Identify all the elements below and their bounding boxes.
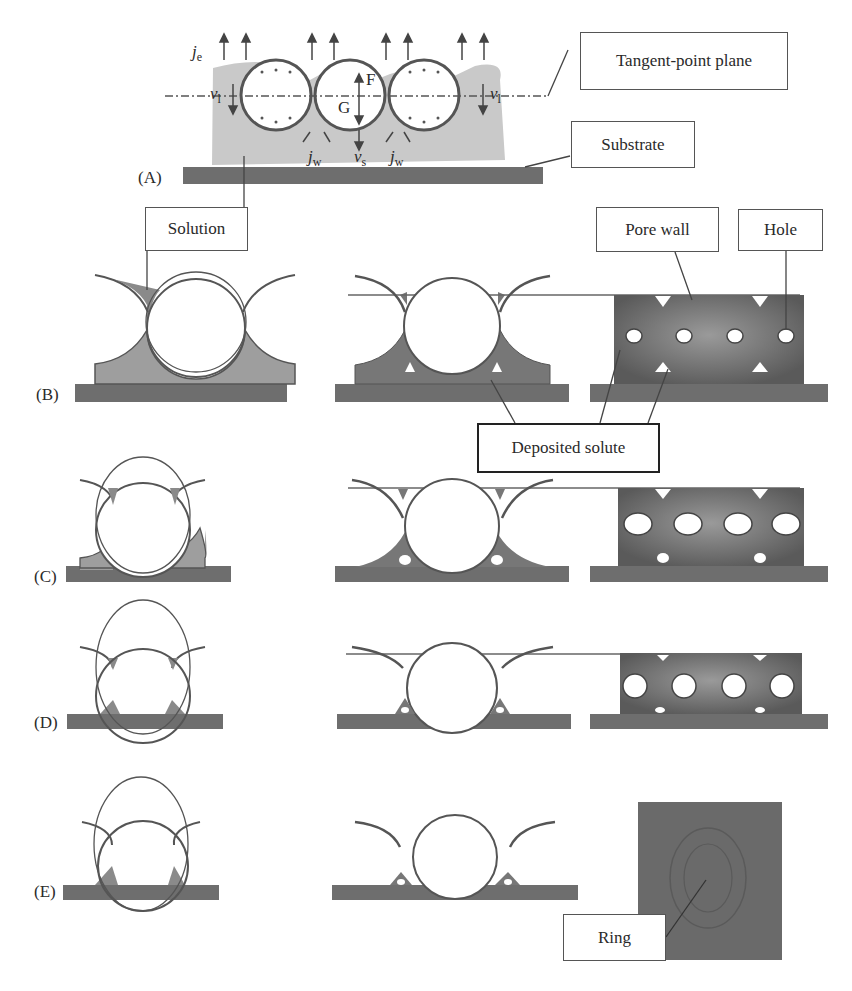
callout-tangent-point-plane: Tangent-point plane [580,32,788,90]
panel-label-b: (B) [36,385,59,405]
callout-pore-wall: Pore wall [596,207,719,252]
panel-e-diagram [63,777,782,960]
symbol-force-f: F [366,70,375,90]
panel-label-a: (A) [138,168,162,188]
panel-c-diagram [66,457,828,582]
symbol-vl-right: νl [490,84,501,107]
symbol-vl-left: νl [210,84,221,107]
symbol-je: je [192,42,202,65]
panel-d-diagram [67,600,828,743]
panel-label-d: (D) [34,713,58,733]
callout-substrate: Substrate [571,121,695,168]
callout-deposited-solute: Deposited solute [477,423,660,473]
callout-ring: Ring [563,914,666,961]
figure-canvas [0,0,852,991]
panel-b-diagram [75,250,828,423]
symbol-jw-left: jw [308,147,321,170]
symbol-vs: νs [354,147,366,170]
panel-label-c: (C) [34,567,57,587]
symbol-jw-right: jw [390,147,403,170]
panel-label-e: (E) [34,882,56,902]
callout-hole: Hole [738,209,823,251]
symbol-gravity-g: G [338,98,350,118]
panel-a-diagram [165,34,570,216]
callout-solution: Solution [145,207,248,251]
